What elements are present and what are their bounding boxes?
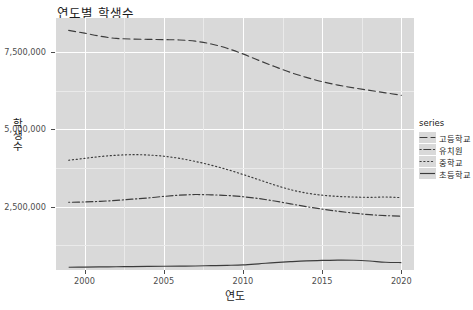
legend-item[interactable]: 고등학교 (419, 132, 473, 143)
legend-item[interactable]: 유치원 (419, 144, 473, 155)
x-tick-label: 2000 (74, 276, 95, 286)
x-tick-mark (164, 270, 165, 274)
plot-panel (56, 18, 414, 270)
legend-key-icon (419, 168, 436, 179)
y-tick-mark (51, 52, 55, 53)
legend-key-icon (419, 156, 436, 167)
series-line (69, 155, 402, 198)
legend-item[interactable]: 중학교 (419, 156, 473, 167)
x-tick-mark (322, 270, 323, 274)
x-tick-mark (85, 270, 86, 274)
legend-label: 중학교 (439, 156, 463, 168)
series-line (69, 30, 402, 95)
x-axis-title: 연도 (56, 287, 414, 303)
y-tick-mark (51, 129, 55, 130)
y-axis-title: 학생수 (10, 118, 26, 153)
y-tick-label: 7,500,000 (0, 47, 46, 57)
series-line (69, 260, 402, 267)
legend-item[interactable]: 초등학교 (419, 168, 473, 179)
legend-label: 고등학교 (439, 132, 471, 144)
legend-key-icon (419, 144, 436, 155)
x-tick-label: 2015 (312, 276, 333, 286)
y-tick-mark (51, 207, 55, 208)
chart-root: 연도별 학생수 2,500,0005,000,0007,500,000 2000… (0, 0, 473, 310)
x-tick-label: 2010 (232, 276, 253, 286)
x-tick-mark (243, 270, 244, 274)
legend-label: 유치원 (439, 144, 463, 156)
x-tick-label: 2020 (391, 276, 412, 286)
series-lines (56, 18, 414, 270)
legend-key-icon (419, 132, 436, 143)
x-tick-label: 2005 (153, 276, 174, 286)
series-line (69, 195, 402, 217)
legend-title: series (419, 118, 473, 128)
x-tick-mark (401, 270, 402, 274)
legend-items: 고등학교유치원중학교초등학교 (419, 132, 473, 179)
y-tick-label: 2,500,000 (0, 202, 46, 212)
legend: series 고등학교유치원중학교초등학교 (419, 118, 473, 180)
legend-label: 초등학교 (439, 168, 471, 180)
